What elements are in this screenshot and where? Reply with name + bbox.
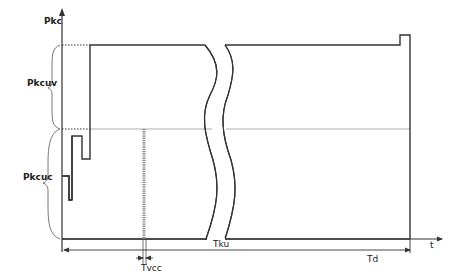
label-tku: Tku [212, 239, 229, 249]
break-mark-left [204, 45, 217, 239]
label-pkcuv: Pkcuv [27, 78, 57, 88]
x-axis-label: t [430, 240, 434, 250]
y-axis-label: Pkc [44, 16, 62, 26]
waveform-pulse-1 [62, 136, 72, 200]
waveform-right [225, 35, 410, 239]
timing-diagram: Pkc t Pkcuv Pkcuc Tku Tvcc Td [0, 0, 466, 280]
bracket-pkcuc [43, 129, 60, 239]
label-td: Td [366, 254, 378, 264]
label-tvcc: Tvcc [140, 263, 162, 273]
waveform-left [62, 45, 205, 200]
label-pkcuc: Pkcuc [23, 172, 53, 182]
